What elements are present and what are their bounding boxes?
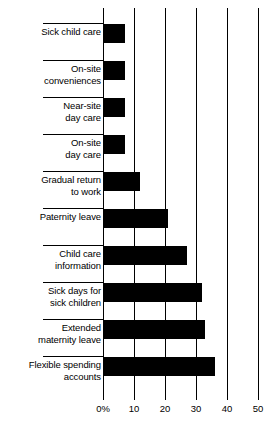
x-axis-tick bbox=[258, 393, 259, 400]
category-label: On-site day care bbox=[0, 137, 101, 160]
x-axis-tick-label: 0% bbox=[96, 403, 110, 414]
row-separator bbox=[43, 245, 103, 246]
category-label: Extended maternity leave bbox=[0, 322, 101, 345]
x-axis-tick bbox=[196, 393, 197, 400]
x-axis-tick bbox=[227, 393, 228, 400]
x-axis-tick bbox=[165, 393, 166, 400]
category-label: Flexible spending accounts bbox=[0, 359, 101, 382]
row-separator bbox=[43, 23, 103, 24]
row-separator bbox=[43, 134, 103, 135]
row-separator bbox=[43, 60, 103, 61]
gridline-50 bbox=[258, 8, 259, 393]
bar bbox=[103, 320, 205, 339]
bar bbox=[103, 357, 215, 376]
x-axis-tick-label: 30 bbox=[191, 403, 202, 414]
bar bbox=[103, 172, 140, 191]
bar bbox=[103, 246, 187, 265]
x-axis-tick bbox=[134, 393, 135, 400]
x-axis-tick-label: 50 bbox=[253, 403, 264, 414]
row-separator bbox=[43, 356, 103, 357]
x-axis-tick bbox=[103, 393, 104, 400]
plot-area: Sick child careOn-site conveniencesNear-… bbox=[0, 0, 277, 438]
bar bbox=[103, 135, 125, 154]
category-label: Sick days for sick children bbox=[0, 285, 101, 308]
bar bbox=[103, 209, 168, 228]
x-axis-tick-label: 40 bbox=[222, 403, 233, 414]
bar bbox=[103, 283, 202, 302]
bar-chart: Sick child careOn-site conveniencesNear-… bbox=[0, 0, 277, 438]
row-separator bbox=[43, 319, 103, 320]
bar bbox=[103, 24, 125, 43]
bar bbox=[103, 61, 125, 80]
row-separator bbox=[43, 171, 103, 172]
x-axis-tick-label: 10 bbox=[129, 403, 140, 414]
row-separator bbox=[43, 97, 103, 98]
category-label: Paternity leave bbox=[0, 211, 101, 223]
x-axis-tick-label: 20 bbox=[160, 403, 171, 414]
gridline-40 bbox=[227, 8, 228, 393]
bar bbox=[103, 98, 125, 117]
category-label: Sick child care bbox=[0, 26, 101, 38]
category-label: Gradual return to work bbox=[0, 174, 101, 197]
row-separator bbox=[43, 282, 103, 283]
category-label: Child care information bbox=[0, 248, 101, 271]
row-separator bbox=[43, 208, 103, 209]
category-label: Near-site day care bbox=[0, 100, 101, 123]
category-label: On-site conveniences bbox=[0, 63, 101, 86]
